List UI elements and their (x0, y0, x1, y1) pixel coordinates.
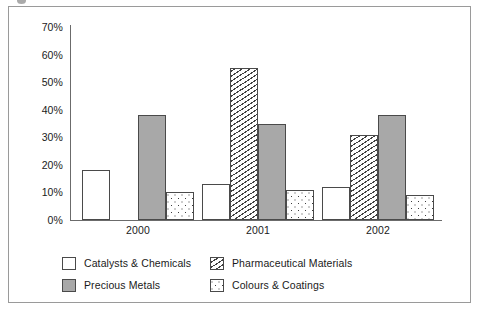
bar-2001-colours-coatings (286, 190, 314, 220)
bar-chart: 0% 10% 20% 30% 40% 50% 60% 70% (0, 0, 481, 315)
y-tick-label-30: 30% (42, 131, 70, 143)
legend-row-1: Catalysts & Chemicals Pharmaceutical Mat… (62, 252, 402, 274)
legend-label-pharmaceutical-materials: Pharmaceutical Materials (232, 257, 352, 269)
plot-area: 0% 10% 20% 30% 40% 50% 60% 70% (70, 27, 438, 220)
y-tick-label-40: 40% (42, 104, 70, 116)
x-tick-label-2001: 2001 (198, 224, 318, 236)
y-tick-label-20: 20% (42, 159, 70, 171)
legend-label-colours-coatings: Colours & Coatings (232, 279, 324, 291)
bar-2001-precious-metals (258, 124, 286, 221)
legend-label-catalysts-chemicals: Catalysts & Chemicals (84, 257, 191, 269)
x-tick-label-2000: 2000 (78, 224, 198, 236)
y-tick-label-70: 70% (42, 21, 70, 33)
bar-2001-pharmaceutical-materials (230, 68, 258, 220)
bar-2002-precious-metals (378, 115, 406, 220)
y-tick-label-60: 60% (42, 49, 70, 61)
legend-swatch-pharmaceutical-materials-icon (210, 257, 224, 270)
legend-item-precious-metals: Precious Metals (62, 279, 210, 292)
legend-swatch-precious-metals-icon (62, 279, 76, 292)
legend-item-colours-coatings: Colours & Coatings (210, 279, 324, 292)
bar-group-2001 (198, 27, 318, 220)
y-tick-label-50: 50% (42, 76, 70, 88)
bar-2002-pharmaceutical-materials (350, 135, 378, 220)
bar-2002-catalysts-chemicals (322, 187, 350, 220)
legend-swatch-colours-coatings-icon (210, 279, 224, 292)
bar-group-2000 (78, 27, 198, 220)
bar-2001-catalysts-chemicals (202, 184, 230, 220)
bar-2000-precious-metals (138, 115, 166, 220)
chart-legend: Catalysts & Chemicals Pharmaceutical Mat… (62, 252, 402, 296)
legend-label-precious-metals: Precious Metals (84, 279, 160, 291)
y-tick-label-0: 0% (48, 214, 70, 226)
x-axis-line (70, 220, 442, 221)
x-tick-label-2002: 2002 (318, 224, 438, 236)
bar-2000-colours-coatings (166, 192, 194, 220)
legend-swatch-catalysts-chemicals-icon (62, 257, 76, 270)
bar-group-2002 (318, 27, 438, 220)
bar-2002-colours-coatings (406, 195, 434, 220)
legend-item-catalysts-chemicals: Catalysts & Chemicals (62, 257, 210, 270)
legend-item-pharmaceutical-materials: Pharmaceutical Materials (210, 257, 352, 270)
legend-row-2: Precious Metals Colours & Coatings (62, 274, 402, 296)
chart-page: 0% 10% 20% 30% 40% 50% 60% 70% (0, 0, 481, 315)
bar-2000-catalysts-chemicals (82, 170, 110, 220)
y-tick-label-10: 10% (42, 186, 70, 198)
